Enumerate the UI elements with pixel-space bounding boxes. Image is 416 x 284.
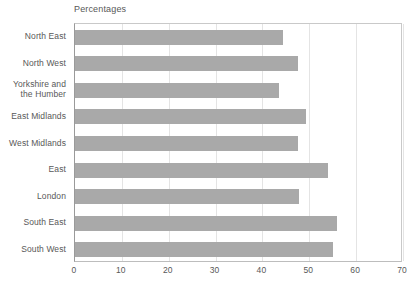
bar [75, 242, 333, 257]
y-axis-label: Yorkshire and the Humber [13, 79, 66, 99]
y-axis-category-labels: North EastNorth WestYorkshire and the Hu… [0, 23, 70, 262]
bar [75, 30, 283, 45]
chart-title: Percentages [74, 4, 126, 14]
bar [75, 109, 306, 124]
bar [75, 83, 279, 98]
x-axis-tick-label: 30 [210, 265, 220, 275]
bar [75, 56, 298, 71]
bar [75, 163, 328, 178]
x-axis-tick-label: 20 [163, 265, 173, 275]
x-axis-tick-label: 50 [303, 265, 313, 275]
y-axis-label: South East [23, 217, 66, 227]
y-axis-label: East [49, 164, 66, 174]
x-axis-tick-label: 70 [397, 265, 407, 275]
bars-layer [75, 24, 401, 261]
y-axis-label: London [37, 191, 66, 201]
y-axis-label: East Midlands [11, 111, 66, 121]
bar [75, 189, 299, 204]
y-axis-label: South West [21, 244, 66, 254]
bar-chart: Percentages North EastNorth WestYorkshir… [0, 0, 416, 284]
y-axis-label: West Midlands [9, 138, 66, 148]
y-axis-label: North East [25, 31, 66, 41]
y-axis-label: North West [23, 58, 66, 68]
x-axis-tick-label: 0 [72, 265, 77, 275]
gridline [403, 24, 404, 261]
plot-area [74, 23, 402, 262]
bar [75, 136, 298, 151]
x-axis-tick-label: 10 [116, 265, 126, 275]
x-axis-tick-label: 60 [350, 265, 360, 275]
bar [75, 216, 337, 231]
x-axis-tick-label: 40 [257, 265, 267, 275]
x-axis-tick-labels: 010203040506070 [0, 265, 416, 281]
